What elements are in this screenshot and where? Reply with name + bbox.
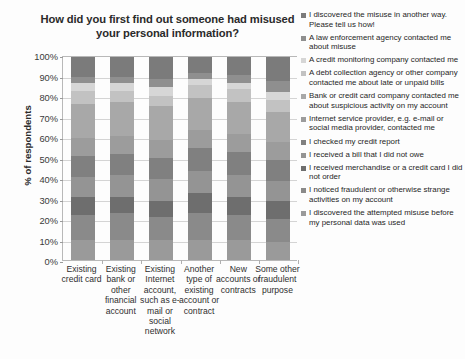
- bar-segment: [149, 179, 173, 201]
- legend-label: I received a bill that I did not owe: [309, 150, 424, 160]
- bar-segment: [266, 92, 290, 100]
- bar-segment: [71, 177, 95, 197]
- bar-segment: [227, 134, 251, 152]
- y-axis-tick-label: 100%: [34, 52, 58, 62]
- gridline: [63, 180, 297, 181]
- bar-segment: [266, 219, 290, 241]
- bar-segment: [266, 160, 290, 180]
- legend-label: I discovered the attempted misuse before…: [309, 208, 465, 227]
- y-axis-tick: [60, 262, 63, 263]
- legend-label: Internet service provider, e.g. e-mail o…: [309, 114, 465, 133]
- legend-swatch-icon: [301, 117, 306, 122]
- y-axis-tick-label: 20%: [39, 216, 58, 226]
- bar-column: [149, 57, 173, 260]
- bar-segment: [110, 136, 134, 154]
- gridline: [63, 139, 297, 140]
- gridline: [63, 221, 297, 222]
- legend-swatch-icon: [301, 94, 306, 99]
- legend-label: A credit monitoring company contacted me: [309, 55, 458, 65]
- bar-segment: [266, 81, 290, 91]
- chart-legend: I discovered the misuse in another way. …: [301, 10, 465, 231]
- y-axis-tick: [60, 160, 63, 161]
- y-axis-tick: [60, 57, 63, 58]
- bar-segment: [149, 79, 173, 87]
- bar-segment: [188, 240, 212, 260]
- legend-item: I received merchandise or a credit card …: [301, 163, 465, 182]
- chart-figure: How did you first find out someone had m…: [0, 0, 465, 359]
- x-axis-category-label: Some other fraudulent purpose: [254, 264, 300, 295]
- legend-label: I checked my credit report: [309, 137, 400, 147]
- bar-segment: [149, 106, 173, 141]
- bar-segment: [110, 57, 134, 77]
- bar-segment: [149, 201, 173, 217]
- y-axis-tick: [60, 242, 63, 243]
- bar-segment: [149, 140, 173, 158]
- bar-column: [266, 57, 290, 260]
- bar-segment: [227, 75, 251, 83]
- bar-segment: [266, 57, 290, 81]
- y-axis-title: % of respondents: [22, 101, 33, 191]
- bar-segment: [227, 215, 251, 239]
- bar-segment: [110, 91, 134, 101]
- legend-swatch-icon: [301, 58, 306, 63]
- bar-segment: [71, 91, 95, 103]
- y-axis-tick: [60, 201, 63, 202]
- bar-segment: [149, 87, 173, 95]
- legend-label: I discovered the misuse in another way. …: [309, 10, 465, 29]
- bar-segment: [188, 171, 212, 193]
- bar-segment: [149, 217, 173, 239]
- legend-item: Bank or credit card company contacted me…: [301, 91, 465, 110]
- bar-segment: [110, 240, 134, 260]
- bar-segment: [71, 104, 95, 139]
- legend-label: A law enforcement agency contacted me ab…: [309, 33, 465, 52]
- bar-column: [71, 57, 95, 260]
- bar-segment: [266, 100, 290, 112]
- bar-segment: [227, 152, 251, 174]
- gridline: [63, 201, 297, 202]
- legend-swatch-icon: [301, 71, 306, 76]
- y-axis-tick: [60, 119, 63, 120]
- y-axis-tick-label: 70%: [39, 114, 58, 124]
- legend-label: I noticed fraudulent or otherwise strang…: [309, 185, 465, 204]
- legend-label: I received merchandise or a credit card …: [309, 163, 465, 182]
- bar-segment: [227, 175, 251, 197]
- bar-segment: [227, 240, 251, 260]
- plot-area: 100%90%80%70%60%50%40%30%20%10%0%: [62, 56, 297, 261]
- y-axis-tick: [60, 221, 63, 222]
- y-axis-tick: [60, 78, 63, 79]
- bar-segment: [227, 57, 251, 75]
- bar-segment: [188, 148, 212, 170]
- legend-label: Bank or credit card company contacted me…: [309, 91, 465, 110]
- y-axis-tick: [60, 139, 63, 140]
- y-axis-tick-label: 40%: [39, 175, 58, 185]
- bar-segment: [149, 158, 173, 178]
- gridline: [63, 78, 297, 79]
- bar-segment: [188, 130, 212, 148]
- bar-segment: [110, 213, 134, 239]
- bar-column: [188, 57, 212, 260]
- bar-segment: [110, 197, 134, 213]
- legend-item: A law enforcement agency contacted me ab…: [301, 33, 465, 52]
- bar-segment: [71, 156, 95, 176]
- gridline: [63, 98, 297, 99]
- legend-swatch-icon: [301, 140, 306, 145]
- legend-item: Internet service provider, e.g. e-mail o…: [301, 114, 465, 133]
- bar-segment: [110, 102, 134, 137]
- y-axis-tick-label: 10%: [39, 237, 58, 247]
- bar-segment: [266, 201, 290, 219]
- bar-segment: [149, 57, 173, 79]
- bar-column: [110, 57, 134, 260]
- bar-segment: [71, 240, 95, 260]
- bar-segment: [71, 215, 95, 239]
- y-axis-tick: [60, 180, 63, 181]
- legend-swatch-icon: [301, 166, 306, 171]
- bar-segment: [188, 213, 212, 239]
- bar-segment: [227, 102, 251, 134]
- y-axis-tick-label: 80%: [39, 93, 58, 103]
- bar-segment: [110, 83, 134, 91]
- bar-segment: [188, 193, 212, 213]
- bar-segment: [188, 98, 212, 130]
- bar-segment: [188, 57, 212, 73]
- legend-swatch-icon: [301, 13, 306, 18]
- legend-item: I checked my credit report: [301, 137, 465, 147]
